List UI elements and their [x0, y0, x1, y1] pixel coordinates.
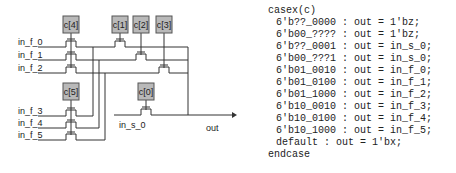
output-bus — [188, 47, 232, 115]
svg-text:c[5]: c[5] — [64, 87, 79, 97]
control-box-c1: c[1] — [112, 16, 128, 33]
code-case-line: 6'b00_???? : out = 1'bz; — [268, 29, 432, 41]
label-in-f-2: in_f_2 — [18, 63, 43, 73]
label-in-f-3: in_f_3 — [18, 106, 43, 116]
svg-text:c[4]: c[4] — [64, 20, 79, 30]
code-case-line: 6'b01_1000 : out = in_f_2; — [268, 89, 432, 101]
verilog-casex-code: casex(c)6'b??_0000 : out = 1'bz;6'b00_??… — [268, 5, 432, 161]
control-box-c5: c[5] — [63, 83, 79, 100]
label-in-s-0: in_s_0 — [119, 120, 146, 130]
label-out: out — [206, 123, 219, 133]
output-arrow-icon — [232, 112, 237, 118]
code-case-line: 6'b??_0001 : out = in_s_0; — [268, 41, 432, 53]
wire-in-f-2 — [38, 67, 188, 73]
code-case-line: 6'b10_1000 : out = in_f_5; — [268, 125, 432, 137]
control-box-c0: c[0] — [138, 83, 154, 100]
control-box-c3: c[3] — [156, 16, 172, 33]
mux-schematic: c[4] c[1] c[2] c[3] c[5] c[0] in_f_0 in_… — [0, 0, 260, 173]
label-in-f-0: in_f_0 — [18, 37, 43, 47]
wire-in-f-0 — [38, 41, 188, 47]
code-case-line: 6'b01_0010 : out = in_f_0; — [268, 65, 432, 77]
code-case-line: 6'b01_0100 : out = in_f_1; — [268, 77, 432, 89]
control-box-c2: c[2] — [133, 16, 149, 33]
code-case-line: 6'b00_???1 : out = in_s_0; — [268, 53, 432, 65]
label-in-f-4: in_f_4 — [18, 118, 43, 128]
label-in-f-1: in_f_1 — [18, 50, 43, 60]
label-in-f-5: in_f_5 — [18, 130, 43, 140]
control-box-c4: c[4] — [63, 16, 79, 33]
code-default-line: default : out = 1'bx; — [268, 137, 432, 149]
wire-in-f-1 — [38, 54, 188, 60]
signal-labels: in_f_0 in_f_1 in_f_2 in_f_3 in_f_4 in_f_… — [18, 37, 219, 140]
svg-text:c[3]: c[3] — [157, 20, 172, 30]
code-footer: endcase — [268, 149, 432, 161]
code-header: casex(c) — [268, 5, 432, 17]
code-case-line: 6'b10_0100 : out = in_f_4; — [268, 113, 432, 125]
svg-text:c[2]: c[2] — [134, 20, 149, 30]
svg-text:c[1]: c[1] — [113, 20, 128, 30]
code-case-line: 6'b??_0000 : out = 1'bz; — [268, 17, 432, 29]
code-case-line: 6'b10_0010 : out = in_f_3; — [268, 101, 432, 113]
wire-in-s-0 — [114, 109, 188, 115]
svg-text:c[0]: c[0] — [139, 87, 154, 97]
